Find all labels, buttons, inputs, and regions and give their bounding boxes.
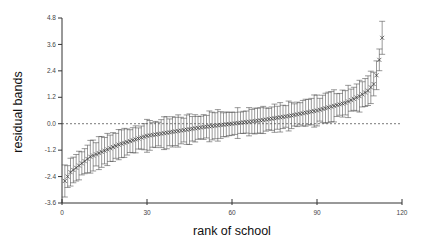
y-tick-label: 3.6 [47, 41, 56, 48]
y-tick-label: -2.4 [45, 173, 57, 180]
y-tick-label: -1.2 [45, 146, 57, 153]
x-axis-title: rank of school [193, 224, 271, 238]
x-tick-label: 0 [60, 209, 64, 216]
y-tick-label: 0.0 [47, 120, 56, 127]
data-markers [63, 36, 384, 183]
y-tick-label: 1.2 [47, 93, 56, 100]
y-axis-ticks: -3.6-2.4-1.20.01.22.43.64.8 [45, 14, 62, 206]
x-tick-label: 120 [397, 209, 408, 216]
error-bars [62, 21, 385, 197]
x-axis-ticks: 0306090120 [60, 199, 408, 216]
caterpillar-plot: -3.6-2.4-1.20.01.22.43.64.8 0306090120 r… [0, 0, 427, 250]
x-tick-label: 60 [228, 209, 236, 216]
y-tick-label: -3.6 [45, 199, 57, 206]
y-tick-label: 4.8 [47, 14, 56, 21]
y-tick-label: 2.4 [47, 67, 56, 74]
x-tick-label: 90 [313, 209, 321, 216]
y-axis-title: residual bands [11, 71, 25, 152]
x-tick-label: 30 [143, 209, 151, 216]
